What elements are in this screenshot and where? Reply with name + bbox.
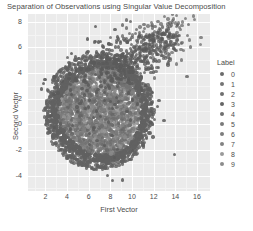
data-point [61, 67, 64, 70]
data-point [121, 159, 124, 162]
data-point [170, 51, 173, 54]
data-point [178, 34, 181, 37]
data-point [161, 25, 164, 28]
data-point [88, 74, 92, 78]
legend-key-icon [216, 119, 227, 129]
data-point [125, 61, 128, 64]
data-point [83, 121, 87, 125]
gridline-major-h [28, 176, 210, 177]
gridline-minor-v [186, 14, 187, 191]
data-point [132, 127, 136, 131]
gridline-minor-h [28, 188, 210, 189]
legend-dot [220, 92, 224, 96]
legend-item-1[interactable]: 1 [216, 79, 235, 89]
data-point [86, 50, 89, 53]
data-point [199, 43, 202, 46]
data-point [145, 54, 148, 57]
legend-item-3[interactable]: 3 [216, 99, 235, 109]
x-tick-label: 4 [57, 193, 77, 200]
data-point [156, 105, 159, 108]
data-point [148, 131, 151, 134]
data-point [125, 26, 128, 29]
data-point [139, 36, 142, 39]
legend-item-0[interactable]: 0 [216, 69, 235, 79]
legend-item-8[interactable]: 8 [216, 149, 235, 159]
data-point [100, 133, 104, 137]
data-point [167, 35, 170, 38]
data-point [116, 127, 120, 131]
y-tick-label: 8 [8, 18, 22, 25]
data-point [108, 157, 111, 160]
legend-item-5[interactable]: 5 [216, 119, 235, 129]
data-point [107, 120, 110, 123]
legend-item-9[interactable]: 9 [216, 159, 235, 169]
data-point [53, 133, 56, 136]
legend-key-icon [216, 89, 227, 99]
data-point [121, 127, 125, 131]
legend-label: 1 [231, 81, 235, 88]
data-point [70, 155, 73, 158]
data-point [105, 60, 108, 63]
data-point [137, 138, 140, 141]
legend-item-6[interactable]: 6 [216, 129, 235, 139]
data-point [56, 91, 59, 94]
data-point [77, 163, 80, 166]
legend-item-7[interactable]: 7 [216, 139, 235, 149]
y-tick-label: 4 [8, 69, 22, 76]
data-point [162, 119, 165, 122]
data-point [95, 90, 98, 93]
data-point [82, 115, 86, 119]
data-point [130, 49, 133, 52]
data-point [63, 149, 66, 152]
data-point [72, 136, 76, 140]
data-point [180, 42, 183, 45]
data-point [120, 138, 124, 142]
legend-dot [220, 142, 224, 146]
data-point [66, 56, 69, 59]
data-point [119, 145, 123, 149]
data-point [119, 48, 122, 51]
data-point [109, 152, 113, 156]
data-point [52, 93, 55, 96]
data-point [142, 124, 145, 127]
legend-dot [220, 132, 224, 136]
data-point [79, 132, 83, 136]
legend-key-icon [216, 149, 227, 159]
data-point [121, 123, 125, 127]
data-point [159, 41, 162, 44]
data-point [62, 103, 66, 107]
legend-dot [220, 162, 224, 166]
legend-dot [220, 82, 224, 86]
data-point [174, 21, 177, 24]
data-point [143, 38, 146, 41]
data-point [127, 39, 130, 42]
data-point [125, 18, 128, 21]
data-point [87, 83, 90, 86]
data-point [131, 89, 135, 93]
data-point [122, 37, 125, 40]
data-point [125, 110, 128, 113]
data-point [88, 98, 91, 101]
data-point [75, 144, 79, 148]
data-point [127, 91, 130, 94]
data-point [69, 88, 72, 91]
data-point [59, 102, 63, 106]
data-point [182, 49, 185, 52]
data-point [99, 80, 102, 83]
data-point [63, 87, 67, 91]
data-point [187, 23, 190, 26]
data-point [151, 49, 154, 52]
data-point [134, 111, 138, 115]
data-point [86, 110, 90, 114]
y-tick-label: -2 [8, 146, 22, 153]
legend-item-4[interactable]: 4 [216, 109, 235, 119]
data-point [147, 114, 150, 117]
data-point [129, 54, 132, 57]
legend-label: 4 [231, 111, 235, 118]
data-point [79, 114, 83, 118]
legend-item-2[interactable]: 2 [216, 89, 235, 99]
x-tick-label: 2 [35, 193, 55, 200]
data-point [119, 78, 122, 81]
data-point [116, 148, 119, 151]
data-point [97, 62, 100, 65]
